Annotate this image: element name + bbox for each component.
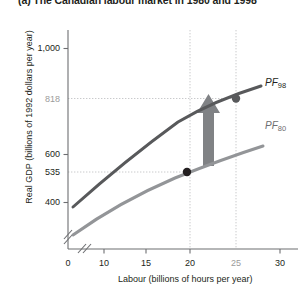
axes bbox=[64, 30, 299, 254]
curve-pf80 bbox=[73, 146, 263, 235]
plot-area bbox=[0, 0, 306, 293]
point-1998-marker bbox=[232, 94, 240, 102]
production-function-chart: (a) The Canadian labour market in 1980 a… bbox=[0, 0, 306, 293]
point-1980-marker bbox=[183, 168, 191, 176]
curve-pf98 bbox=[73, 86, 261, 207]
